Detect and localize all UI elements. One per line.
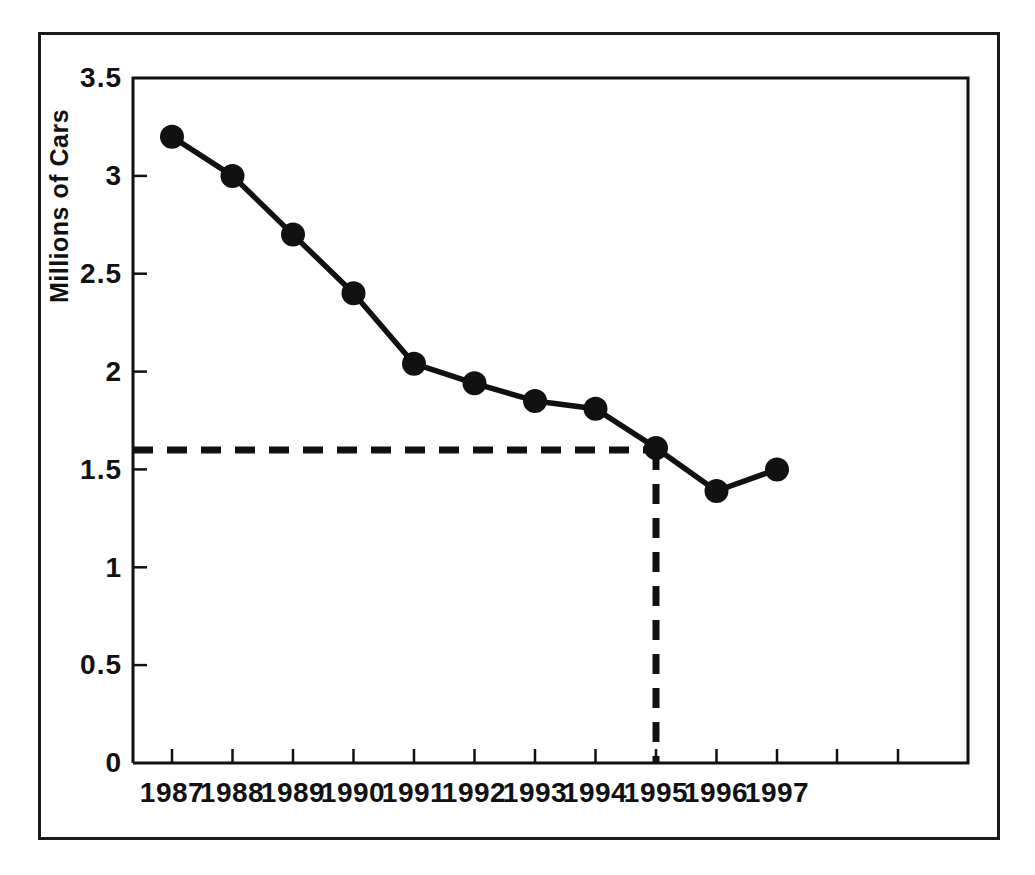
- data-point-1992: [463, 371, 487, 395]
- x-axis-ticks: [172, 749, 898, 763]
- data-point-1994: [584, 397, 608, 421]
- data-point-1989: [281, 223, 305, 247]
- data-point-1993: [523, 389, 547, 413]
- y-tick-label-3-5: 3.5: [52, 61, 122, 95]
- data-point-1990: [342, 281, 366, 305]
- y-tick-label-1-5: 1.5: [52, 453, 122, 487]
- y-tick-label-2-5: 2.5: [52, 257, 122, 291]
- data-point-1988: [221, 164, 245, 188]
- x-tick-label-1997: 1997: [722, 775, 832, 811]
- data-point-1996: [705, 479, 729, 503]
- data-point-1997: [765, 457, 789, 481]
- data-point-1987: [160, 125, 184, 149]
- data-point-1995: [644, 436, 668, 460]
- series-line: [172, 137, 777, 491]
- data-series-millions-of-cars: [160, 125, 789, 503]
- data-point-1991: [402, 352, 426, 376]
- y-tick-label-3: 3: [52, 159, 122, 193]
- reference-guides: [133, 450, 656, 763]
- y-tick-label-2: 2: [52, 355, 122, 389]
- y-tick-label-1: 1: [52, 551, 122, 585]
- plot-axes: [133, 78, 968, 763]
- y-tick-label-0: 0: [52, 746, 122, 780]
- y-tick-label-0-5: 0.5: [52, 648, 122, 682]
- axis-spines: [133, 78, 968, 763]
- line-chart-canvas: [0, 0, 1035, 875]
- chart-figure: Millions of Cars 3.5 3 2.5 2 1.5 1 0.5 0…: [0, 0, 1035, 875]
- y-axis-ticks: [133, 176, 147, 665]
